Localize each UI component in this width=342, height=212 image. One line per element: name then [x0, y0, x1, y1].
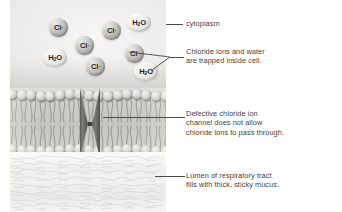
chloride-ion: Cl-: [86, 57, 105, 76]
mucus-lumen-region: [10, 152, 166, 212]
chloride-ion: Cl-: [49, 18, 68, 37]
leader-line-trapped-ions: [170, 57, 184, 58]
annotation-label-trapped-ions: Chloride ions and water are trapped insi…: [186, 47, 265, 66]
leader-line-lumen-mucus: [155, 176, 185, 177]
figure-canvas: Cl-Cl-Cl-Cl-Cl-H2OH2OH2O: [0, 0, 342, 212]
mucus-streak-texture: [10, 152, 166, 212]
water-molecule: H2O: [43, 48, 67, 67]
water-molecule: H2O: [134, 62, 158, 81]
water-molecule: H2O: [127, 13, 151, 32]
annotation-label-cytoplasm: cytoplasm: [186, 19, 220, 28]
chloride-ion: Cl-: [75, 36, 94, 55]
chloride-ion: Cl-: [125, 44, 144, 63]
cell-membrane-illustration: Cl-Cl-Cl-Cl-Cl-H2OH2OH2O: [10, 0, 166, 212]
chloride-channel-protein: [80, 88, 100, 160]
annotation-label-defective-channel: Defective chloride ion channel does not …: [186, 109, 284, 137]
leader-line-defective-channel: [103, 117, 185, 118]
leader-line-cytoplasm: [166, 24, 183, 25]
phospholipid-bilayer: [10, 88, 166, 160]
annotation-label-lumen-mucus: Lumen of respiratory tract fills with th…: [186, 171, 279, 190]
chloride-ion: Cl-: [102, 21, 121, 40]
